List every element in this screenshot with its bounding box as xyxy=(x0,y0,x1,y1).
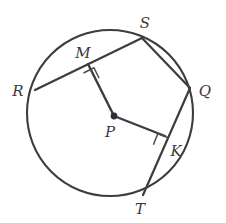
circle-P xyxy=(27,30,193,196)
segment-PM xyxy=(88,64,114,116)
point-label-K: K xyxy=(169,142,182,160)
point-label-M: M xyxy=(74,44,91,62)
point-label-Q: Q xyxy=(199,82,211,100)
point-label-P: P xyxy=(104,123,116,141)
chord-SQ xyxy=(142,38,190,88)
center-point-dot-P xyxy=(111,113,118,120)
point-label-S: S xyxy=(140,14,150,32)
circle-geometry-diagram: S M R Q P K T xyxy=(0,0,226,223)
point-label-T: T xyxy=(135,200,146,218)
chord-QT xyxy=(143,88,190,195)
geometry-figure-container: S M R Q P K T xyxy=(0,0,226,223)
point-label-R: R xyxy=(11,82,23,100)
